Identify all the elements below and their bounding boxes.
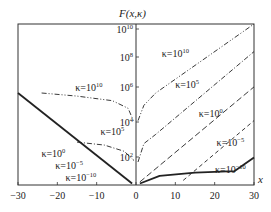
x-tick-label: 0 — [134, 190, 139, 201]
series-line — [138, 24, 254, 121]
chart: −30−20−1001020301010108106104102 κ=1010κ… — [0, 0, 271, 212]
curve-label: κ=105 — [175, 78, 199, 90]
curve-label: κ=10−5 — [55, 159, 83, 171]
curve-label: κ=1010 — [75, 81, 102, 93]
series-line — [140, 157, 254, 183]
x-tick-label: 10 — [170, 190, 180, 201]
curve-label: κ=105 — [100, 125, 124, 137]
x-tick-label: −10 — [89, 190, 105, 201]
x-tick-label: −20 — [50, 190, 66, 201]
x-tick-label: 20 — [210, 190, 220, 201]
curve-label: κ=10−5 — [217, 136, 245, 148]
curve-label: κ=100 — [199, 107, 223, 119]
chart-title: F(x,κ) — [118, 7, 146, 20]
curve-label: κ=100 — [41, 147, 65, 159]
curve-label: κ=10−10 — [66, 171, 97, 183]
y-tick-label: 1010 — [117, 23, 134, 35]
y-tick-label: 106 — [120, 81, 134, 93]
curve-label: κ=1010 — [162, 47, 189, 59]
x-tick-label: −30 — [10, 190, 26, 201]
x-axis-label: x — [257, 173, 263, 185]
x-tick-label: 30 — [249, 190, 259, 201]
curve-label: κ=10−10 — [215, 163, 246, 175]
y-tick-label: 108 — [120, 51, 133, 63]
annotation-layer: κ=1010κ=105κ=100κ=10−5κ=10−10κ=1010κ=105… — [41, 47, 245, 183]
plot-frame — [18, 24, 254, 185]
y-tick-label: 102 — [120, 151, 133, 163]
